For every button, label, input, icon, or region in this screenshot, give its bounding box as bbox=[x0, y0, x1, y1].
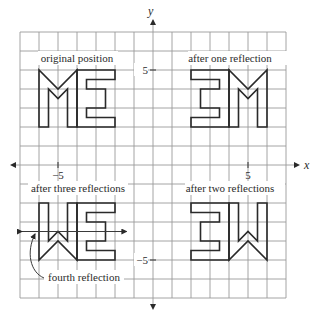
label-original-text: original position bbox=[41, 52, 114, 64]
x-axis-label: x bbox=[303, 158, 310, 172]
reflection-diagram: xy−555−5 original position after one ref… bbox=[0, 0, 318, 320]
label-three-text: after three reflections bbox=[31, 182, 125, 194]
y-axis-up-arrow-icon bbox=[150, 19, 156, 25]
x-tick-label: 5 bbox=[245, 169, 251, 181]
x-axis-right-arrow-icon bbox=[294, 162, 300, 168]
label-two-text: after two reflections bbox=[186, 182, 275, 194]
label-one: after one reflection bbox=[188, 51, 292, 65]
label-original: original position bbox=[38, 51, 118, 65]
y-tick-label: 5 bbox=[143, 64, 149, 76]
y-axis-down-arrow-icon bbox=[150, 304, 156, 310]
x-axis-left-arrow-icon bbox=[10, 162, 16, 168]
label-three: after three reflections bbox=[28, 181, 128, 195]
label-one-text: after one reflection bbox=[188, 52, 272, 64]
x-tick-label: −5 bbox=[52, 169, 64, 181]
y-axis-label: y bbox=[147, 4, 154, 18]
label-fourth-text: fourth reflection bbox=[48, 271, 120, 283]
axes: xy−555−5 bbox=[10, 4, 310, 310]
label-two: after two reflections bbox=[185, 181, 285, 195]
y-tick-label: −5 bbox=[136, 254, 148, 266]
